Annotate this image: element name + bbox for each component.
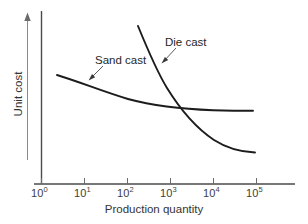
x-tick-label-3: 103 — [160, 187, 177, 199]
x-tick-label-4: 104 — [203, 187, 220, 199]
x-axis-title: Production quantity — [0, 203, 308, 215]
sand-cast-curve — [57, 75, 253, 111]
x-tick-label-1: 101 — [74, 187, 91, 199]
y-axis-direction-arrow — [24, 13, 30, 161]
y-axis-title: Unit cost — [12, 58, 24, 130]
die-cast-leader — [162, 48, 177, 64]
x-tick-label-5: 105 — [246, 187, 263, 199]
unit-cost-vs-production-quantity-chart: 100 101 102 103 104 105 Production quant… — [0, 0, 308, 224]
sand-cast-leader — [89, 66, 103, 80]
x-tick-label-0: 100 — [31, 187, 48, 199]
series-label-die-cast: Die cast — [165, 36, 207, 48]
series-label-sand-cast: Sand cast — [95, 54, 146, 66]
x-axis-ticks — [42, 178, 257, 184]
x-tick-label-2: 102 — [117, 187, 134, 199]
